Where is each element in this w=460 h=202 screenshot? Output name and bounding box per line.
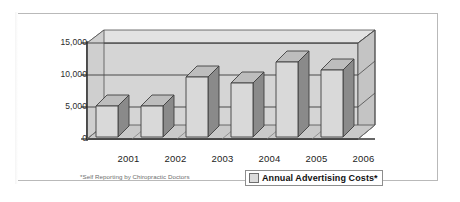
y-axis-label-15000: 15,000 <box>41 38 87 47</box>
chart-legend[interactable]: Annual Advertising Costs* <box>245 170 383 186</box>
legend-series-label: Annual Advertising Costs* <box>262 173 378 183</box>
bar-2003[interactable] <box>186 66 219 137</box>
bar-2006-front <box>321 70 343 137</box>
bar-2003-front <box>186 77 208 137</box>
bar-2005-side <box>298 51 309 137</box>
x-axis-label-2006: 2006 <box>340 153 387 169</box>
x-axis-label-2002: 2002 <box>152 153 199 169</box>
bar-2006[interactable] <box>321 59 354 137</box>
bar-2002[interactable] <box>141 95 174 137</box>
x-axis-labels: 2001 2002 2003 2004 2005 2006 <box>105 153 387 169</box>
legend-swatch-square-icon <box>249 173 259 183</box>
bar-2002-front <box>141 106 163 137</box>
bar-chart: 15,000 10,000 5,000 0 2001 2002 2003 200… <box>17 13 438 181</box>
y-axis-label-5000: 5,000 <box>41 102 87 111</box>
bar-2004-side <box>253 72 264 137</box>
chart-footnote: *Self Reporting by Chiropractic Doctors <box>80 173 190 180</box>
x-axis-label-2005: 2005 <box>293 153 340 169</box>
y-axis-label-10000: 10,000 <box>41 70 87 79</box>
bar-2001[interactable] <box>96 95 129 137</box>
x-axis-label-2001: 2001 <box>105 153 152 169</box>
bar-2005[interactable] <box>276 51 309 137</box>
plot-right-wall <box>358 30 375 139</box>
bar-2004-front <box>231 83 253 137</box>
x-axis-label-2004: 2004 <box>246 153 293 169</box>
x-axis-label-2003: 2003 <box>199 153 246 169</box>
bar-2006-side <box>343 59 354 137</box>
bar-2003-side <box>208 66 219 137</box>
plot-ceiling <box>87 30 375 43</box>
y-axis-labels: 15,000 10,000 5,000 0 <box>37 13 87 181</box>
bar-2001-front <box>96 106 118 137</box>
bar-2005-front <box>276 62 298 137</box>
bar-2004[interactable] <box>231 72 264 137</box>
y-axis-label-0: 0 <box>41 134 87 143</box>
